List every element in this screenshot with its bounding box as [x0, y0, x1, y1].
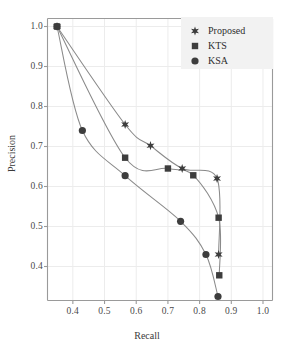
legend-label: KSA — [208, 56, 228, 66]
circle-marker — [189, 55, 201, 67]
x-tick-label: 0.4 — [62, 306, 84, 316]
y-tick-label: 0.8 — [17, 101, 43, 111]
y-tick-label: 0.7 — [17, 141, 43, 151]
y-tick-label: 0.5 — [17, 221, 43, 231]
x-axis-title: Recall — [0, 330, 294, 341]
y-tick-label: 0.6 — [17, 181, 43, 191]
y-tick-label: 0.4 — [17, 261, 43, 271]
legend-item-kts[interactable]: KTS — [189, 38, 227, 54]
x-tick-label: 1.0 — [252, 306, 274, 316]
precision-recall-chart: 0.40.50.60.70.80.91.0 0.40.50.60.70.80.9… — [0, 0, 294, 353]
y-tick-label: 1.0 — [17, 21, 43, 31]
star-marker — [189, 25, 201, 37]
x-tick-label: 0.7 — [157, 306, 179, 316]
y-axis-title: Precision — [6, 119, 17, 189]
square-marker — [189, 40, 201, 52]
legend-label: Proposed — [208, 26, 245, 36]
x-tick-label: 0.6 — [125, 306, 147, 316]
x-tick-label: 0.5 — [94, 306, 116, 316]
x-tick-label: 0.8 — [189, 306, 211, 316]
y-tick-label: 0.9 — [17, 61, 43, 71]
chart-legend: ProposedKTSKSA — [181, 17, 273, 69]
legend-item-ksa[interactable]: KSA — [189, 53, 228, 69]
legend-item-proposed[interactable]: Proposed — [189, 23, 245, 39]
legend-label: KTS — [208, 41, 227, 51]
x-tick-label: 0.9 — [220, 306, 242, 316]
